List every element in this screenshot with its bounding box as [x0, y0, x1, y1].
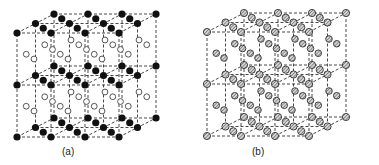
hatched-atom	[308, 61, 315, 68]
hatched-atom	[324, 19, 331, 26]
filled-atom	[32, 72, 39, 79]
hatched-atom	[239, 97, 246, 104]
hatched-atom	[326, 88, 333, 95]
filled-atom	[84, 114, 91, 121]
filled-atom	[115, 133, 122, 140]
filled-atom	[92, 119, 99, 126]
filled-atom	[81, 29, 88, 36]
open-atom	[99, 56, 105, 62]
filled-atom	[50, 114, 57, 121]
open-atom	[91, 103, 97, 109]
hatched-atom	[281, 102, 288, 109]
filled-atom	[108, 77, 115, 84]
open-atom	[136, 37, 142, 43]
hatched-atom	[308, 9, 315, 16]
hatched-atom	[255, 55, 262, 62]
open-atom	[23, 103, 29, 109]
open-atom	[136, 89, 142, 95]
filled-atom	[50, 10, 57, 17]
filled-atom	[81, 81, 88, 88]
hatched-atom	[222, 71, 229, 78]
open-atom	[68, 89, 74, 95]
hatched-atom	[256, 19, 263, 26]
hatched-atom	[333, 40, 340, 47]
open-atom	[118, 47, 124, 53]
hatched-atom	[342, 9, 349, 16]
hatched-atom	[282, 118, 289, 125]
hatched-atom	[258, 88, 265, 95]
hatched-atom	[281, 50, 288, 57]
filled-atom	[32, 124, 39, 131]
hatched-atom	[222, 19, 229, 26]
filled-atom	[47, 81, 54, 88]
open-atom	[84, 47, 90, 53]
hatched-atom	[203, 132, 210, 139]
hatched-atom	[271, 80, 278, 87]
hatched-atom	[239, 45, 246, 52]
hatched-atom	[231, 40, 238, 47]
open-atom	[65, 108, 71, 114]
panel-b-lattice	[203, 9, 349, 139]
hatched-atom	[305, 28, 312, 35]
hatched-atom	[298, 24, 305, 31]
hatched-atom	[305, 80, 312, 87]
hatched-atom	[213, 50, 220, 57]
hatched-atom	[248, 118, 255, 125]
hatched-atom	[299, 40, 306, 47]
hatched-atom	[274, 113, 281, 120]
filled-atom	[92, 15, 99, 22]
hatched-atom	[290, 123, 297, 130]
filled-atom	[118, 114, 125, 121]
hatched-atom	[326, 36, 333, 43]
filled-atom	[126, 67, 133, 74]
open-atom	[57, 51, 63, 57]
filled-atom	[100, 72, 107, 79]
filled-atom	[126, 119, 133, 126]
filled-atom	[115, 81, 122, 88]
hatched-atom	[240, 113, 247, 120]
hatched-atom	[203, 28, 210, 35]
panel-b-caption: (b)	[252, 146, 264, 157]
filled-atom	[152, 10, 159, 17]
open-atom	[99, 108, 105, 114]
filled-atom	[66, 72, 73, 79]
open-atom	[125, 51, 131, 57]
hatched-atom	[265, 40, 272, 47]
filled-atom	[58, 119, 65, 126]
hatched-atom	[221, 107, 228, 114]
hatched-atom	[342, 61, 349, 68]
hatched-atom	[240, 9, 247, 16]
hatched-atom	[298, 76, 305, 83]
filled-atom	[66, 124, 73, 131]
hatched-atom	[273, 45, 280, 52]
hatched-atom	[248, 66, 255, 73]
hatched-atom	[290, 71, 297, 78]
hatched-atom	[292, 88, 299, 95]
hatched-atom	[237, 132, 244, 139]
open-atom	[65, 56, 71, 62]
hatched-atom	[316, 66, 323, 73]
filled-atom	[74, 129, 81, 136]
hatched-atom	[265, 92, 272, 99]
open-atom	[23, 51, 29, 57]
filled-atom	[84, 10, 91, 17]
open-atom	[31, 56, 37, 62]
filled-atom	[74, 25, 81, 32]
filled-atom	[134, 20, 141, 27]
hatched-atom	[308, 113, 315, 120]
hatched-atom	[230, 24, 237, 31]
hatched-atom	[271, 28, 278, 35]
filled-atom	[47, 29, 54, 36]
hatched-atom	[255, 107, 262, 114]
filled-atom	[47, 133, 54, 140]
filled-atom	[66, 20, 73, 27]
open-atom	[144, 94, 150, 100]
hatched-atom	[248, 14, 255, 21]
hatched-atom	[315, 102, 322, 109]
filled-atom	[134, 72, 141, 79]
open-atom	[31, 108, 37, 114]
hatched-atom	[256, 71, 263, 78]
hatched-atom	[213, 102, 220, 109]
open-atom	[144, 42, 150, 48]
open-atom	[110, 42, 116, 48]
